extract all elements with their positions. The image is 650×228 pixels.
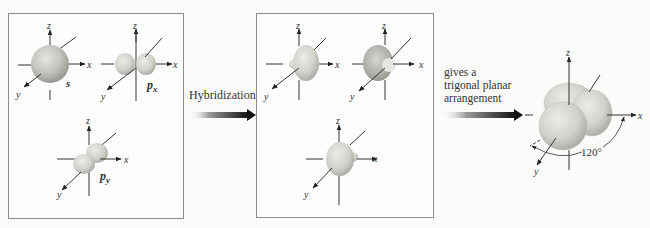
s-z-axis-label: z <box>47 19 51 32</box>
py-z-axis-label: z <box>86 114 90 127</box>
hybridization-label: Hybridization <box>189 89 256 102</box>
s-orbital-label: s <box>66 77 70 90</box>
result-x-axis-label: x <box>638 109 642 122</box>
px-orbital-subscript: x <box>153 84 158 94</box>
py-orbital-subscript: y <box>106 175 110 185</box>
left-panel <box>9 14 184 219</box>
sp2-1-x-axis-label: x <box>335 58 339 71</box>
orbital-diagram <box>0 0 650 228</box>
result-y-axis-label: y <box>534 165 538 178</box>
result-arrowhead <box>514 109 523 121</box>
bond-angle-label: 120° <box>581 146 602 159</box>
sp2-2-x-axis-label: x <box>419 58 423 71</box>
sp2-1-y-axis-label: y <box>264 90 268 103</box>
middle-panel <box>257 14 434 218</box>
hybridization-arrow <box>188 112 248 118</box>
py-y-axis-label: y <box>57 188 61 201</box>
px-z-axis-label: z <box>133 19 137 32</box>
result-z-axis-label: z <box>566 46 570 59</box>
caption-line-3: arrangement <box>444 92 534 105</box>
sp2-3-x-axis-label: x <box>373 152 377 165</box>
caption-line-2: trigonal planar <box>444 79 534 92</box>
sp2-3-y-axis-label: y <box>304 188 308 201</box>
py-orbital-label: py <box>100 170 110 187</box>
result-arrow <box>440 112 515 118</box>
sp2-1-z-axis-label: z <box>296 19 300 32</box>
s-x-axis-label: x <box>87 58 91 71</box>
caption-line-1: gives a <box>444 66 534 79</box>
px-orbital-label: px <box>147 79 158 96</box>
px-y-axis-label: y <box>101 90 105 103</box>
s-y-axis-label: y <box>16 88 20 101</box>
sp2-2-z-axis-label: z <box>382 19 386 32</box>
py-x-axis-label: x <box>124 153 128 166</box>
sp2-2-y-axis-label: y <box>350 90 354 103</box>
sp2-3-z-axis-label: z <box>336 114 340 127</box>
hybridization-arrowhead <box>247 109 256 121</box>
px-x-axis-label: x <box>173 58 177 71</box>
trigonal-planar-caption: gives a trigonal planar arrangement <box>444 66 534 105</box>
